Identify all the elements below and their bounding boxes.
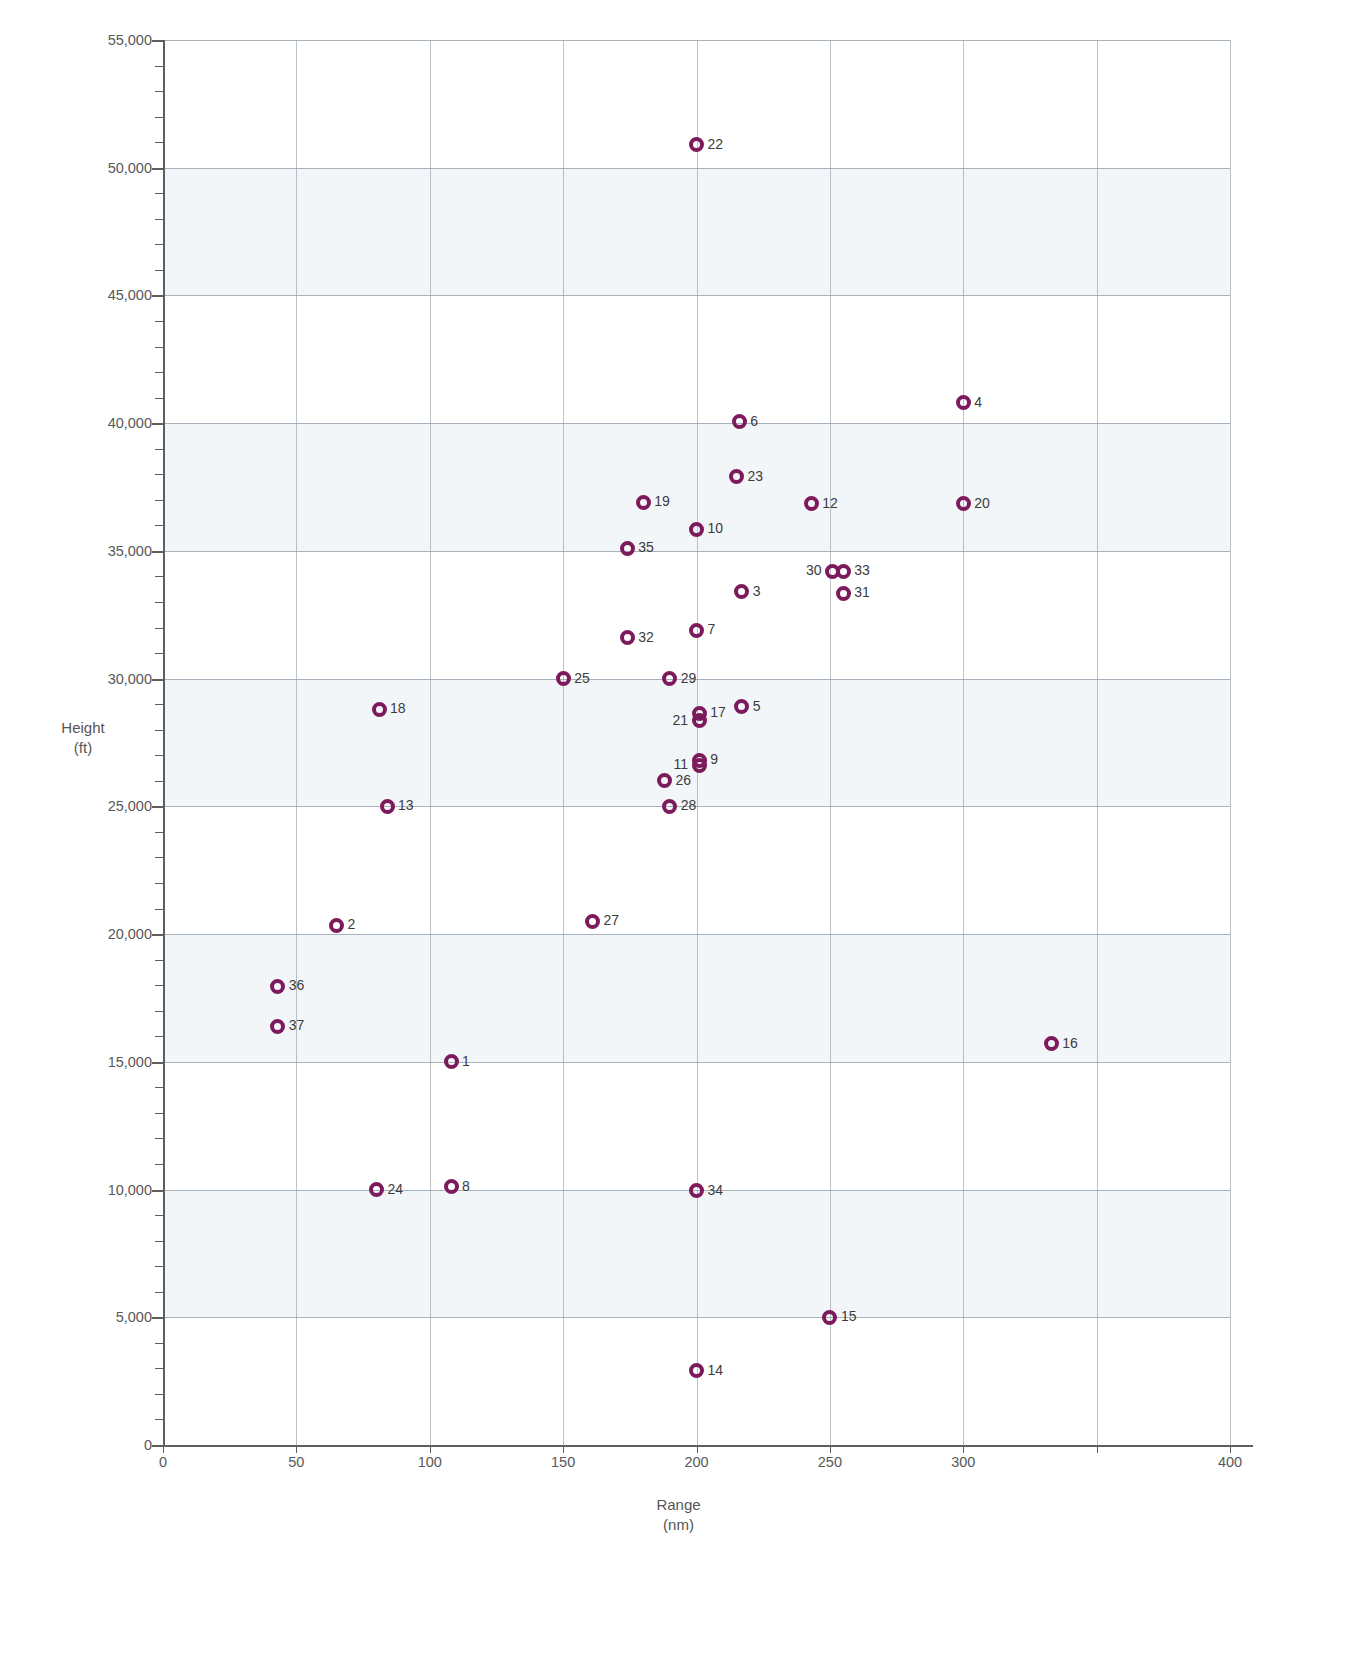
y-axis-tick-label: 15,000 [108,1054,152,1070]
data-point-label: 36 [289,977,305,993]
data-point-label: 27 [603,912,619,928]
y-axis-minor-tick [155,704,165,705]
y-axis-minor-tick [155,653,165,654]
x-axis-tick-label: 250 [818,1454,842,1470]
y-axis-minor-tick [155,960,165,961]
y-axis-tick-label: 35,000 [108,543,152,559]
data-point-label: 2 [347,916,355,932]
y-axis-tick [152,806,165,808]
x-axis-tick [1097,1445,1098,1453]
data-point-label: 29 [681,670,697,686]
data-point-label: 20 [974,495,990,511]
y-axis-tick-label: 5,000 [116,1309,152,1325]
x-axis-tick [830,1445,831,1453]
y-axis-minor-tick [155,372,165,373]
data-point-label: 28 [681,797,697,813]
y-axis-minor-tick [155,500,165,501]
data-point-label: 24 [387,1181,403,1197]
data-point-marker-icon [689,522,704,537]
y-axis-minor-tick [155,628,165,629]
y-axis-minor-tick [155,525,165,526]
y-axis-minor-tick [155,321,165,322]
data-point-marker-icon [689,623,704,638]
y-axis-tick-label: 50,000 [108,160,152,176]
x-axis-tick-label: 50 [288,1454,304,1470]
y-axis-minor-tick [155,1394,165,1395]
y-axis-title-text: Height [40,718,126,738]
y-axis-minor-tick [155,219,165,220]
data-point-label: 22 [708,136,724,152]
y-axis-minor-tick [155,347,165,348]
x-axis-title-text: Range [0,1495,1357,1515]
y-axis-tick [152,1317,165,1319]
y-axis-tick-label: 40,000 [108,415,152,431]
data-point-label: 3 [753,583,761,599]
y-axis-minor-tick [155,474,165,475]
x-axis-tick-label: 400 [1218,1454,1242,1470]
data-point-label: 8 [462,1178,470,1194]
data-point-label: 9 [710,751,718,767]
data-point-label: 35 [638,539,654,555]
data-point-label: 4 [974,394,982,410]
y-axis-minor-tick [155,244,165,245]
y-axis-tick-label: 0 [144,1437,152,1453]
y-axis-minor-tick [155,1215,165,1216]
data-point-label: 17 [710,704,726,720]
data-point-label: 30 [806,562,822,578]
data-point-marker-icon [692,713,707,728]
plot-area [163,40,1230,1445]
data-point-label: 6 [750,413,758,429]
y-axis-minor-tick [155,1241,165,1242]
gridline-vertical [430,40,431,1445]
y-axis-minor-tick [155,1343,165,1344]
y-axis-tick [152,934,165,936]
data-point-label: 1 [462,1053,470,1069]
data-point-marker-icon [636,495,651,510]
data-point-marker-icon [804,496,819,511]
data-point-label: 26 [675,772,691,788]
y-axis-minor-tick [155,270,165,271]
data-point-label: 25 [574,670,590,686]
y-axis-minor-tick [155,730,165,731]
gridline-vertical [563,40,564,1445]
x-axis-line [163,1445,1253,1447]
y-axis-tick-label: 20,000 [108,926,152,942]
x-axis-tick [963,1445,964,1453]
data-point-label: 31 [854,584,870,600]
data-point-marker-icon [444,1179,459,1194]
y-axis-unit-text: (ft) [40,738,126,758]
data-point-label: 16 [1062,1035,1078,1051]
y-axis-tick [152,1062,165,1064]
data-point-label: 37 [289,1017,305,1033]
gridline-vertical [1097,40,1098,1445]
data-point-marker-icon [556,671,571,686]
data-point-marker-icon [620,541,635,556]
x-axis-tick-label: 300 [951,1454,975,1470]
x-axis-tick [1230,1445,1231,1453]
y-axis-minor-tick [155,117,165,118]
data-point-marker-icon [369,1182,384,1197]
data-point-label: 12 [822,495,838,511]
data-point-marker-icon [444,1054,459,1069]
data-point-label: 11 [674,756,689,772]
y-axis-minor-tick [155,1292,165,1293]
x-axis-title: Range (nm) [0,1495,1357,1536]
y-axis-tick-label: 55,000 [108,32,152,48]
data-point-label: 14 [708,1362,724,1378]
y-axis-minor-tick [155,781,165,782]
data-point-marker-icon [329,918,344,933]
data-point-label: 13 [398,797,414,813]
data-point-marker-icon [270,1019,285,1034]
x-axis-tick [563,1445,564,1453]
gridline-vertical [296,40,297,1445]
x-axis-tick [697,1445,698,1453]
y-axis-minor-tick [155,832,165,833]
data-point-label: 19 [654,493,670,509]
x-axis-tick-label: 100 [418,1454,442,1470]
data-point-marker-icon [836,586,851,601]
y-axis-minor-tick [155,1011,165,1012]
data-point-marker-icon [620,630,635,645]
y-axis-minor-tick [155,909,165,910]
x-axis-tick-label: 0 [159,1454,167,1470]
y-axis-minor-tick [155,193,165,194]
